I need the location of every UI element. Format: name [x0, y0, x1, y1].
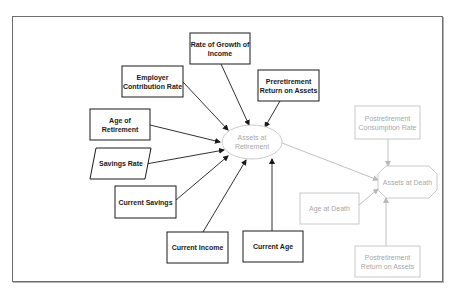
label-savings-rate: Savings Rate [92, 148, 150, 179]
label-age-of-retirement: Age of Retirement [90, 109, 150, 140]
label-age-at-death: Age at Death [300, 193, 359, 224]
label-current-savings: Current Savings [115, 186, 176, 218]
edge-age-death-to-assets-death [359, 189, 378, 205]
label-preretirement-return: Preretirement Return on Assets [258, 70, 319, 101]
edge-employer-to-assets-retirement [183, 82, 228, 130]
label-rate-growth-income: Rate of Growth of Income [190, 33, 250, 64]
edge-current-income-to-assets-retirement [203, 160, 246, 232]
edge-age-retirement-to-assets-retirement [150, 125, 220, 142]
label-postretirement-return: Postretirement Return on Assets [355, 246, 420, 277]
label-assets-at-retirement: Assets at Retirement [230, 128, 274, 156]
edge-current-savings-to-assets-retirement [176, 156, 228, 200]
label-postretirement-consumption: Postretirement Consumption Rate [355, 106, 420, 139]
edge-rate-growth-to-assets-retirement [221, 64, 249, 125]
edge-preretirement-to-assets-retirement [265, 101, 280, 127]
label-assets-at-death: Assets at Death [378, 166, 437, 198]
label-current-income: Current Income [167, 232, 228, 263]
label-employer-contribution: Employer Contribution Rate [122, 66, 183, 97]
edge-assets-retirement-to-assets-death [282, 143, 378, 180]
label-current-age: Current Age [243, 231, 303, 262]
edge-savings-rate-to-assets-retirement [146, 150, 224, 164]
